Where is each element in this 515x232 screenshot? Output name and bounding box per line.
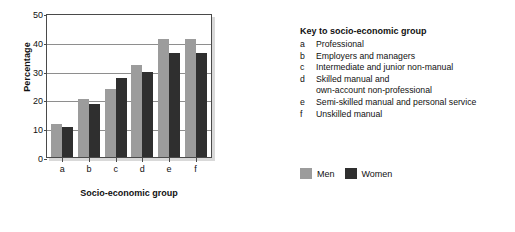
y-tick-label-40: 40 <box>33 39 43 49</box>
bar-e-men <box>158 39 169 157</box>
y-tick-label-10: 10 <box>33 125 43 135</box>
bar-group-c <box>105 15 127 157</box>
bar-group-d <box>131 15 153 157</box>
x-axis-title: Socio-economic group <box>46 188 212 198</box>
y-tick-label-0: 0 <box>38 154 43 164</box>
x-tick-label-f: f <box>194 164 197 174</box>
key-list: aProfessionalbEmployers and managerscInt… <box>300 39 512 120</box>
bar-e-women <box>169 53 180 157</box>
key-desc-b: Employers and managers <box>316 51 512 63</box>
legend-item-men: Men <box>300 168 335 179</box>
bar-d-men <box>131 65 142 157</box>
bar-c-men <box>105 89 116 157</box>
bar-a-women <box>62 127 73 157</box>
bar-f-women <box>196 53 207 157</box>
key-code-f: f <box>300 109 316 121</box>
key-desc-c: Intermediate and junior non-manual <box>316 62 512 74</box>
key-entry-b: bEmployers and managers <box>300 51 512 63</box>
x-tick-label-b: b <box>86 164 91 174</box>
key-code-b: b <box>300 51 316 63</box>
bar-c-women <box>116 78 127 157</box>
plot-area: 01020304050 <box>46 14 212 158</box>
key-title: Key to socio-economic group <box>300 26 512 36</box>
x-tick-f <box>196 158 197 162</box>
key-desc-f: Unskilled manual <box>316 109 512 121</box>
key-entry-a: aProfessional <box>300 39 512 51</box>
bar-group-e <box>158 15 180 157</box>
bar-series-container <box>47 15 211 157</box>
figure-container: Percentage 01020304050 abcdef Socio-econ… <box>0 0 515 232</box>
y-tick-label-50: 50 <box>33 10 43 20</box>
y-tick-label-30: 30 <box>33 68 43 78</box>
key-code-e: e <box>300 97 316 109</box>
bar-b-women <box>89 104 100 157</box>
key-code-d: d <box>300 74 316 86</box>
key-code-c: c <box>300 62 316 74</box>
key-entry-e: eSemi-skilled manual and personal servic… <box>300 97 512 109</box>
key-entry-c: cIntermediate and junior non-manual <box>300 62 512 74</box>
bar-group-f <box>185 15 207 157</box>
x-tick-e <box>169 158 170 162</box>
key-desc-d: Skilled manual and <box>316 74 512 86</box>
x-tick-label-a: a <box>60 164 65 174</box>
legend-label-men: Men <box>317 169 335 179</box>
bar-group-b <box>78 15 100 157</box>
x-tick-c <box>116 158 117 162</box>
key-desc-e: Semi-skilled manual and personal service <box>316 97 512 109</box>
x-tick-label-c: c <box>113 164 118 174</box>
x-tick-a <box>62 158 63 162</box>
key-panel: Key to socio-economic group aProfessiona… <box>300 26 512 120</box>
bar-chart: Percentage 01020304050 abcdef Socio-econ… <box>0 0 290 232</box>
bar-a-men <box>51 124 62 157</box>
x-tick-d <box>142 158 143 162</box>
x-tick-label-e: e <box>166 164 171 174</box>
key-desc-a: Professional <box>316 39 512 51</box>
y-axis-title: Percentage <box>22 22 32 112</box>
key-desc-cont-d: own-account non-professional <box>316 85 512 97</box>
y-tick-label-20: 20 <box>33 96 43 106</box>
key-entry-f: fUnskilled manual <box>300 109 512 121</box>
x-tick-label-d: d <box>140 164 145 174</box>
bar-b-men <box>78 99 89 157</box>
x-tick-b <box>89 158 90 162</box>
series-legend: Men Women <box>300 168 392 179</box>
women-swatch-icon <box>345 168 357 179</box>
key-code-a: a <box>300 39 316 51</box>
key-entry-d: dSkilled manual and <box>300 74 512 86</box>
bar-group-a <box>51 15 73 157</box>
bar-f-men <box>185 39 196 157</box>
men-swatch-icon <box>300 168 312 179</box>
bar-d-women <box>142 72 153 157</box>
legend-item-women: Women <box>345 168 393 179</box>
x-axis-ticks: abcdef <box>46 158 212 184</box>
legend-label-women: Women <box>362 169 393 179</box>
